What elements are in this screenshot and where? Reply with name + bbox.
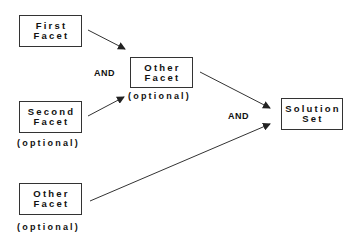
optional-note-bottom: (optional) bbox=[17, 222, 80, 232]
arrow-second-to-other bbox=[88, 97, 124, 116]
and-operator-left: AND bbox=[94, 68, 115, 78]
arrow-bottom-other-to-solution bbox=[90, 124, 270, 201]
node-label-line2: Facet bbox=[143, 73, 181, 83]
node-other-facet-bottom: Other Facet bbox=[19, 183, 82, 215]
node-label-line2: Facet bbox=[32, 117, 70, 127]
arrow-other-to-solution bbox=[200, 72, 270, 108]
node-first-facet: First Facet bbox=[19, 15, 82, 47]
optional-note-second: (optional) bbox=[17, 138, 80, 148]
arrow-first-to-other bbox=[88, 30, 125, 49]
node-solution-set: Solution Set bbox=[281, 98, 343, 130]
optional-note-mid: (optional) bbox=[128, 91, 191, 101]
node-second-facet: Second Facet bbox=[19, 101, 82, 133]
and-operator-right: AND bbox=[228, 111, 249, 121]
node-label-line1: Other bbox=[142, 63, 180, 73]
node-label-line2: Facet bbox=[32, 199, 70, 209]
node-label-line2: Set bbox=[300, 114, 323, 124]
node-label-line2: Facet bbox=[32, 31, 70, 41]
node-other-facet-mid: Other Facet bbox=[130, 57, 193, 88]
